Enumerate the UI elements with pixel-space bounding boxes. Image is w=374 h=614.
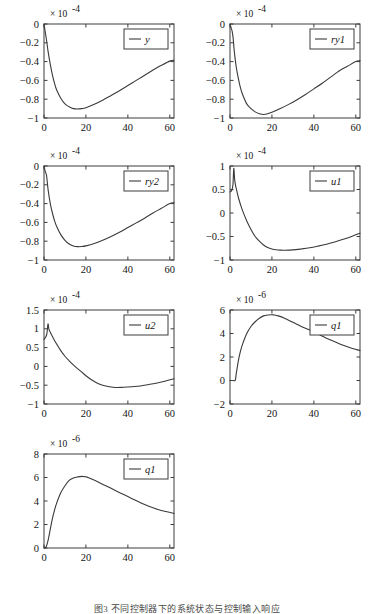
x-tick-label: 20	[81, 122, 92, 133]
y-tick-label: −0.2	[20, 179, 39, 190]
x-tick-label: 60	[165, 408, 176, 419]
axis-exponent-label: × 10-6	[50, 434, 80, 449]
legend-label: q1	[331, 320, 342, 331]
x-tick-label: 0	[227, 122, 232, 133]
x-tick-label: 0	[41, 552, 46, 563]
axis-exponent-label: × 10-4	[50, 146, 80, 161]
legend: q1	[124, 459, 168, 479]
x-tick-label: 60	[165, 264, 176, 275]
subplot-panel-u1: 0204060−1−0.500.51× 10-4u1	[186, 144, 374, 286]
x-tick-label: 20	[81, 408, 92, 419]
legend-label: y	[144, 34, 150, 45]
svg-text:× 10: × 10	[50, 439, 67, 449]
y-tick-label: −1	[214, 113, 225, 124]
svg-text:× 10: × 10	[236, 295, 253, 305]
axis-exponent-label: × 10-4	[236, 146, 266, 161]
legend-label: ry2	[145, 176, 160, 187]
svg-text:× 10: × 10	[236, 151, 253, 161]
y-tick-label: −2	[214, 399, 225, 410]
x-tick-label: 40	[123, 122, 134, 133]
x-tick-label: 60	[351, 122, 362, 133]
y-tick-label: 6	[220, 305, 225, 316]
figure-panel-grid: 0204060−1−0.8−0.6−0.4−0.20× 10-4y0204060…	[0, 0, 374, 614]
y-tick-label: 0.5	[212, 184, 225, 195]
subplot-panel-y: 0204060−1−0.8−0.6−0.4−0.20× 10-4y	[0, 2, 188, 144]
x-tick-label: 20	[81, 552, 92, 563]
y-tick-label: 1	[220, 161, 225, 172]
legend: y	[124, 29, 168, 49]
y-tick-label: −0.4	[20, 56, 40, 67]
y-tick-label: −0.8	[206, 94, 225, 105]
y-tick-label: 0.5	[26, 342, 39, 353]
x-tick-label: 40	[123, 264, 134, 275]
y-tick-label: 2	[220, 352, 225, 363]
x-tick-label: 20	[81, 264, 92, 275]
x-tick-label: 0	[227, 264, 232, 275]
y-tick-label: −0.5	[20, 380, 39, 391]
subplot-panel-q1-upper: 0204060−20246× 10-6q1	[186, 288, 374, 430]
x-tick-label: 40	[309, 122, 320, 133]
x-tick-label: 60	[351, 264, 362, 275]
y-tick-label: −0.6	[206, 75, 225, 86]
x-tick-label: 0	[41, 122, 46, 133]
axis-exponent-label: × 10-4	[236, 4, 266, 19]
legend: u1	[310, 171, 354, 191]
y-tick-label: −0.4	[206, 56, 226, 67]
x-tick-label: 40	[309, 408, 320, 419]
x-tick-label: 60	[165, 552, 176, 563]
y-tick-label: 0	[34, 161, 39, 172]
legend: ry2	[124, 171, 168, 191]
legend: u2	[124, 315, 168, 335]
y-tick-label: −0.6	[20, 217, 39, 228]
svg-text:-6: -6	[258, 290, 266, 300]
x-tick-label: 40	[123, 552, 134, 563]
y-tick-label: 0	[220, 208, 225, 219]
y-tick-label: 0	[220, 375, 225, 386]
y-tick-label: −1	[28, 113, 39, 124]
legend-label: u1	[331, 176, 342, 187]
y-tick-label: 0	[34, 361, 39, 372]
x-tick-label: 20	[267, 264, 278, 275]
legend-label: u2	[145, 320, 156, 331]
x-tick-label: 60	[165, 122, 176, 133]
y-tick-label: −0.8	[20, 94, 39, 105]
y-tick-label: 4	[34, 496, 40, 507]
y-tick-label: 6	[34, 472, 39, 483]
legend: q1	[310, 315, 354, 335]
y-tick-label: −0.2	[206, 37, 225, 48]
y-tick-label: −0.8	[20, 236, 39, 247]
svg-text:× 10: × 10	[50, 9, 67, 19]
svg-text:-4: -4	[258, 146, 266, 156]
x-tick-label: 0	[41, 408, 46, 419]
legend-label: q1	[145, 464, 156, 475]
axis-exponent-label: × 10-4	[50, 290, 80, 305]
svg-text:-4: -4	[72, 290, 80, 300]
y-tick-label: 4	[220, 328, 226, 339]
svg-text:-4: -4	[72, 146, 80, 156]
y-tick-label: 0	[34, 543, 39, 554]
svg-text:-4: -4	[258, 4, 266, 14]
y-tick-label: 1	[34, 323, 39, 334]
axis-exponent-label: × 10-4	[50, 4, 80, 19]
y-tick-label: −0.6	[20, 75, 39, 86]
x-tick-label: 0	[227, 408, 232, 419]
y-tick-label: 2	[34, 519, 39, 530]
x-tick-label: 20	[267, 408, 278, 419]
x-tick-label: 40	[309, 264, 320, 275]
svg-text:× 10: × 10	[236, 9, 253, 19]
svg-text:-4: -4	[72, 4, 80, 14]
subplot-panel-u2: 0204060−1−0.500.511.5× 10-4u2	[0, 288, 188, 430]
y-tick-label: −0.2	[20, 37, 39, 48]
y-tick-label: −1	[28, 399, 39, 410]
axis-exponent-label: × 10-6	[236, 290, 266, 305]
svg-text:× 10: × 10	[50, 295, 67, 305]
y-tick-label: −0.5	[206, 231, 225, 242]
y-tick-label: −1	[214, 255, 225, 266]
y-tick-label: −1	[28, 255, 39, 266]
svg-text:-6: -6	[72, 434, 80, 444]
subplot-panel-q1-lower: 020406002468× 10-6q1	[0, 432, 188, 574]
data-curve-q1	[44, 476, 174, 548]
y-tick-label: 0	[34, 19, 39, 30]
figure-caption: 图3 不同控制器下的系统状态与控制输入响应	[0, 604, 374, 614]
x-tick-label: 40	[123, 408, 134, 419]
